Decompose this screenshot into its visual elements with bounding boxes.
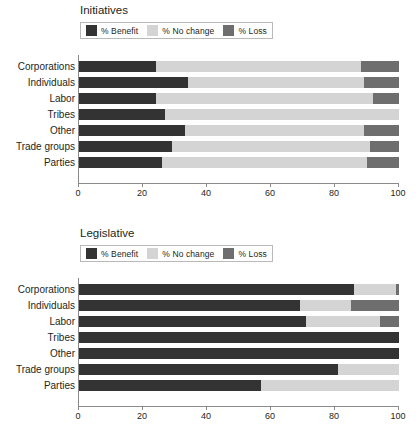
bar-segment bbox=[354, 284, 396, 295]
bar-segment bbox=[79, 332, 399, 343]
legend-label: % Loss bbox=[238, 249, 266, 259]
bar-segment bbox=[156, 93, 374, 104]
bar-segment bbox=[373, 93, 399, 104]
bar-segment bbox=[351, 300, 399, 311]
category-label-parties: Parties bbox=[44, 380, 75, 391]
chart-legend-initiatives: % Benefit% No change% Loss bbox=[80, 22, 273, 39]
category-label-other: Other bbox=[50, 348, 75, 359]
x-axis-line-initiatives bbox=[78, 183, 398, 184]
bar-segment bbox=[261, 380, 399, 391]
bar-row: Labor bbox=[79, 93, 399, 104]
x-axis-tick-label: 20 bbox=[137, 411, 147, 421]
bar-segment bbox=[306, 316, 380, 327]
category-label-other: Other bbox=[50, 125, 75, 136]
bar-segment bbox=[364, 125, 399, 136]
legend-entry-legislative-0[interactable]: % Benefit bbox=[86, 248, 138, 259]
legend-entry-legislative-1[interactable]: % No change bbox=[147, 248, 214, 259]
bar-segment bbox=[156, 61, 361, 72]
x-axis-tick-label: 20 bbox=[137, 188, 147, 198]
x-axis-tick bbox=[334, 406, 335, 410]
bar-row: Parties bbox=[79, 380, 399, 391]
x-axis-tick bbox=[398, 183, 399, 187]
x-axis-tick bbox=[206, 406, 207, 410]
x-axis-tick-label: 100 bbox=[390, 411, 405, 421]
category-label-trade-groups: Trade groups bbox=[16, 364, 75, 375]
x-axis-tick-label: 60 bbox=[265, 188, 275, 198]
category-label-trade-groups: Trade groups bbox=[16, 141, 75, 152]
x-axis-tick bbox=[142, 406, 143, 410]
bar-segment bbox=[79, 380, 261, 391]
chart-title-initiatives: Initiatives bbox=[80, 4, 128, 16]
x-axis-tick bbox=[270, 183, 271, 187]
bar-row: Other bbox=[79, 125, 399, 136]
legend-entry-initiatives-0[interactable]: % Benefit bbox=[86, 25, 138, 36]
bar-segment bbox=[79, 109, 165, 120]
legend-label: % Loss bbox=[238, 26, 266, 36]
bar-row: Tribes bbox=[79, 109, 399, 120]
bar-segment bbox=[79, 93, 156, 104]
x-axis-line-legislative bbox=[78, 406, 398, 407]
category-label-labor: Labor bbox=[49, 316, 75, 327]
x-axis-tick bbox=[78, 183, 79, 187]
legend-entry-initiatives-1[interactable]: % No change bbox=[147, 25, 214, 36]
bar-segment bbox=[396, 284, 399, 295]
x-axis-tick-label: 0 bbox=[75, 188, 80, 198]
bar-segment bbox=[79, 300, 300, 311]
chart-title-legislative: Legislative bbox=[80, 227, 134, 239]
category-label-corporations: Corporations bbox=[18, 61, 75, 72]
x-axis-tick-label: 0 bbox=[75, 411, 80, 421]
plot-area-initiatives: CorporationsIndividualsLaborTribesOtherT… bbox=[78, 55, 398, 185]
category-label-labor: Labor bbox=[49, 93, 75, 104]
legend-swatch-icon bbox=[86, 25, 97, 36]
bar-segment bbox=[79, 364, 338, 375]
bar-segment bbox=[300, 300, 351, 311]
bar-segment bbox=[188, 77, 364, 88]
category-label-tribes: Tribes bbox=[48, 332, 75, 343]
bar-row: Trade groups bbox=[79, 364, 399, 375]
legend-label: % No change bbox=[162, 26, 214, 36]
chart-legend-legislative: % Benefit% No change% Loss bbox=[80, 245, 273, 262]
x-axis-tick-label: 100 bbox=[390, 188, 405, 198]
x-axis-tick bbox=[270, 406, 271, 410]
bar-segment bbox=[367, 157, 399, 168]
legend-label: % Benefit bbox=[101, 249, 138, 259]
legend-label: % Benefit bbox=[101, 26, 138, 36]
x-axis-tick-label: 40 bbox=[201, 188, 211, 198]
bar-segment bbox=[162, 157, 367, 168]
bar-segment bbox=[380, 316, 399, 327]
bar-segment bbox=[79, 77, 188, 88]
bar-row: Corporations bbox=[79, 61, 399, 72]
legend-swatch-icon bbox=[147, 25, 158, 36]
legend-entry-initiatives-2[interactable]: % Loss bbox=[223, 25, 266, 36]
plot-area-legislative: CorporationsIndividualsLaborTribesOtherT… bbox=[78, 278, 398, 408]
bar-row: Labor bbox=[79, 316, 399, 327]
bar-row: Parties bbox=[79, 157, 399, 168]
bar-segment bbox=[79, 157, 162, 168]
legend-swatch-icon bbox=[223, 25, 234, 36]
bar-segment bbox=[172, 141, 370, 152]
x-axis-tick-label: 80 bbox=[329, 188, 339, 198]
bar-row: Other bbox=[79, 348, 399, 359]
bar-row: Individuals bbox=[79, 77, 399, 88]
x-axis-tick bbox=[206, 183, 207, 187]
bar-segment bbox=[364, 77, 399, 88]
x-axis-tick-label: 80 bbox=[329, 411, 339, 421]
category-label-parties: Parties bbox=[44, 157, 75, 168]
bar-segment bbox=[79, 348, 399, 359]
legend-swatch-icon bbox=[86, 248, 97, 259]
legend-label: % No change bbox=[162, 249, 214, 259]
bar-segment bbox=[79, 141, 172, 152]
x-axis-tick bbox=[142, 183, 143, 187]
bar-row: Trade groups bbox=[79, 141, 399, 152]
legend-swatch-icon bbox=[223, 248, 234, 259]
x-axis-tick bbox=[334, 183, 335, 187]
category-label-individuals: Individuals bbox=[28, 77, 75, 88]
bar-segment bbox=[361, 61, 399, 72]
chart-panel-legislative: Legislative % Benefit% No change% Loss C… bbox=[0, 225, 420, 445]
bar-segment bbox=[79, 125, 185, 136]
legend-entry-legislative-2[interactable]: % Loss bbox=[223, 248, 266, 259]
category-label-corporations: Corporations bbox=[18, 284, 75, 295]
bar-segment bbox=[370, 141, 399, 152]
x-axis-tick-label: 60 bbox=[265, 411, 275, 421]
x-axis-tick bbox=[78, 406, 79, 410]
